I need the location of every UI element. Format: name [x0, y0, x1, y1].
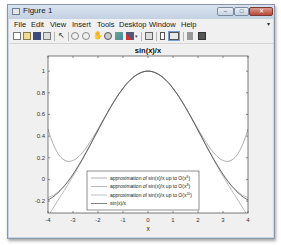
y-tick-label: 0.2	[37, 155, 46, 161]
menu-overflow-arrow-icon[interactable]: ▾	[267, 20, 270, 27]
legend-entry: approximation of sin(x)/x up to O(x8)	[110, 183, 190, 189]
link-plot-icon[interactable]	[145, 32, 153, 40]
x-tick-label: -2	[95, 217, 101, 223]
y-tick-label: 0.4	[37, 133, 46, 139]
print-icon[interactable]	[43, 32, 51, 40]
x-tick-label: 4	[246, 217, 250, 223]
save-icon[interactable]	[33, 32, 41, 40]
figure-window: Figure 1 – □ ✕ File Edit View Insert Too…	[7, 4, 275, 239]
x-tick-label: 0	[146, 217, 150, 223]
brush-dropdown-icon[interactable]: ▾	[135, 32, 139, 40]
data-cursor-icon[interactable]	[115, 32, 123, 40]
x-tick-label: 3	[221, 217, 225, 223]
plot-title: sin(x)/x	[135, 46, 162, 55]
open-file-icon[interactable]	[23, 32, 31, 40]
rotate-3d-icon[interactable]	[104, 32, 112, 40]
y-tick-label: -0.2	[35, 198, 46, 204]
x-tick-label: -4	[45, 217, 51, 223]
x-tick-label: -1	[120, 217, 126, 223]
toolbar-separator	[54, 32, 55, 41]
toolbar-separator	[68, 32, 69, 41]
insert-legend-icon[interactable]	[169, 32, 179, 40]
y-tick-label: 0.8	[37, 90, 46, 96]
x-axis-label: x	[146, 225, 150, 232]
menu-window[interactable]: Window	[149, 20, 176, 29]
x-tick-label: 2	[196, 217, 200, 223]
brush-icon[interactable]	[126, 32, 134, 40]
x-tick-label: -3	[70, 217, 76, 223]
close-button[interactable]: ✕	[249, 7, 273, 16]
legend-entry: approximation of sin(x)/x up to O(x10)	[110, 192, 192, 198]
menu-file[interactable]: File	[14, 20, 26, 29]
menu-bar: File Edit View Insert Tools Desktop Wind…	[9, 19, 273, 30]
menu-help[interactable]: Help	[181, 20, 196, 29]
y-tick-label: 1	[42, 68, 46, 74]
y-tick-label: 0	[42, 176, 46, 182]
figure-canvas: -4-3-2-101234-0.200.20.40.60.81 sin(x)/x…	[9, 44, 273, 237]
menu-view[interactable]: View	[50, 20, 66, 29]
show-plot-tools-icon[interactable]	[198, 32, 206, 40]
y-tick-label: 0.6	[37, 111, 46, 117]
maximize-button[interactable]: □	[234, 7, 249, 16]
sinx-over-x-chart[interactable]: -4-3-2-101234-0.200.20.40.60.81 sin(x)/x…	[9, 44, 275, 239]
figure-toolbar: ↖ ✋ ▾	[9, 30, 273, 44]
menu-insert[interactable]: Insert	[72, 20, 91, 29]
minimize-button[interactable]: –	[217, 7, 234, 16]
legend[interactable]: approximation of sin(x)/x up to O(x6)app…	[87, 171, 199, 210]
menu-desktop[interactable]: Desktop	[119, 20, 147, 29]
zoom-in-icon[interactable]	[71, 32, 79, 40]
zoom-out-icon[interactable]	[82, 32, 90, 40]
matlab-figure-icon	[12, 8, 20, 15]
menu-tools[interactable]: Tools	[97, 20, 115, 29]
pan-hand-icon[interactable]: ✋	[93, 32, 101, 40]
toolbar-separator	[141, 32, 142, 41]
title-bar[interactable]: Figure 1 – □ ✕	[8, 5, 274, 19]
edit-plot-arrow-icon[interactable]: ↖	[58, 32, 66, 40]
legend-entry: sin(x)/x	[110, 200, 127, 206]
window-title: Figure 1	[23, 6, 52, 15]
insert-colorbar-icon[interactable]	[160, 32, 165, 40]
toolbar-separator	[156, 32, 157, 41]
toolbar-separator	[183, 32, 184, 41]
menu-edit[interactable]: Edit	[31, 20, 44, 29]
x-tick-label: 1	[171, 217, 175, 223]
hide-plot-tools-icon[interactable]	[187, 32, 193, 40]
legend-entry: approximation of sin(x)/x up to O(x6)	[110, 175, 190, 181]
new-figure-icon[interactable]	[13, 32, 21, 40]
